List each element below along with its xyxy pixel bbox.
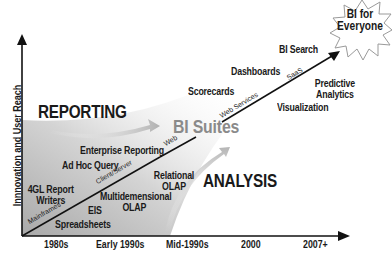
x-tick-early-1990s: Early 1990s xyxy=(96,239,144,250)
x-tick-2000: 2000 xyxy=(241,239,261,250)
item-text: OLAP xyxy=(152,181,196,192)
item-text: Multidemensional xyxy=(100,191,169,202)
x-tick-mid-1990s: Mid-1990s xyxy=(166,239,209,250)
item-enterprise-reporting: Enterprise Reporting xyxy=(80,145,164,156)
item-multidimensional-olap: Multidemensional OLAP xyxy=(100,191,169,213)
item-predictive-analytics: Predictive Analytics xyxy=(312,78,358,100)
y-axis-label: Innnovation and User Reach xyxy=(12,69,23,222)
item-relational-olap: Relational OLAP xyxy=(152,170,196,192)
analysis-region-label: ANALYSIS xyxy=(203,172,277,191)
item-text: OLAP xyxy=(100,202,169,213)
x-tick-2007-plus: 2007+ xyxy=(303,239,328,250)
x-tick-1980s: 1980s xyxy=(44,239,68,250)
reporting-region-label: REPORTING xyxy=(38,103,127,122)
item-text: Analytics xyxy=(312,89,358,100)
item-spreadsheets: Spreadsheets xyxy=(55,219,111,230)
item-scorecards: Scorecards xyxy=(188,86,234,97)
bi-suites-label: BI Suites xyxy=(173,118,239,137)
bi-evolution-diagram: Innnovation and User Reach BI for Everyo… xyxy=(0,0,392,255)
item-dashboards: Dashboards xyxy=(231,66,280,77)
bi-for-everyone-label: BI for Everyone xyxy=(335,8,386,32)
item-text: Relational xyxy=(152,170,196,181)
item-text: 4GL Report xyxy=(26,184,75,195)
item-visualization: Visualization xyxy=(277,102,328,113)
destination-line2: Everyone xyxy=(335,20,386,32)
item-bi-search: BI Search xyxy=(279,44,318,55)
item-text: Predictive xyxy=(312,78,358,89)
item-4gl-report-writers: 4GL Report Writers xyxy=(26,184,75,206)
y-axis-arrowhead-icon xyxy=(17,34,27,45)
x-axis-arrowhead-icon xyxy=(338,231,350,241)
trend-arrowhead-icon xyxy=(328,51,340,61)
